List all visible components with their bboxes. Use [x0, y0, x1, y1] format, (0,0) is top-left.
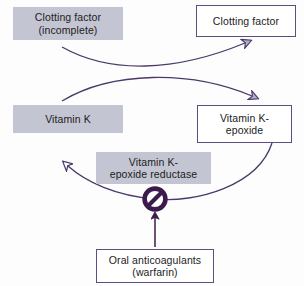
node-label-line: (warfarin)	[109, 266, 201, 279]
node-vitamin-k: Vitamin K	[13, 105, 123, 133]
node-label-line: Clotting factor	[213, 15, 279, 28]
node-label-line: Vitamin K-	[110, 156, 198, 169]
node-oral-anticoagulants: Oral anticoagulants (warfarin)	[96, 249, 214, 283]
node-label-line: Oral anticoagulants	[109, 254, 201, 267]
arrow-vitamin-k-to-epoxide	[62, 77, 252, 101]
node-label-line: (incomplete)	[35, 24, 101, 37]
node-clotting-factor-incomplete: Clotting factor (incomplete)	[13, 7, 123, 40]
node-label-line: epoxide reductase	[110, 168, 198, 181]
vitamin-k-cycle-diagram: Clotting factor (incomplete) Clotting fa…	[0, 0, 304, 286]
connector-layer	[0, 0, 304, 286]
node-label-line: epoxide	[220, 124, 269, 137]
node-label-line: Clotting factor	[35, 11, 101, 24]
node-label-line: Vitamin K-	[220, 112, 269, 125]
arrow-incomplete-to-clotting-factor	[62, 43, 245, 66]
node-vitamin-k-epoxide: Vitamin K- epoxide	[197, 105, 292, 143]
node-label-line: Vitamin K	[45, 113, 91, 126]
node-vitamin-k-epoxide-reductase: Vitamin K- epoxide reductase	[96, 152, 211, 184]
node-clotting-factor: Clotting factor	[196, 5, 296, 37]
no-entry-icon	[145, 189, 166, 210]
